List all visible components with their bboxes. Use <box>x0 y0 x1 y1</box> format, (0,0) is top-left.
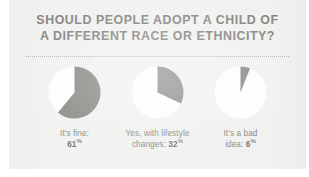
pie-chart-2-percent-sign: % <box>178 139 183 145</box>
pie-chart-1-label-line1: It's fine: <box>60 128 89 139</box>
pie-chart-3-percent-sign: % <box>250 139 255 145</box>
pie-chart-1-label: It's fine: 61% <box>60 128 89 151</box>
pie-chart-2-label: Yes, with lifestyle changes: 32% <box>126 128 190 151</box>
headline-line-1: SHOULD PEOPLE ADOPT A CHILD OF <box>9 13 306 29</box>
pie-chart-row: It's fine: 61% Yes, with lifestyle chang… <box>9 66 306 151</box>
pie-chart-3-svg <box>214 66 267 119</box>
pie-chart-item-lifestyle-changes: Yes, with lifestyle changes: 32% <box>116 66 199 151</box>
pie-chart-3-label-line2: idea: 6% <box>224 139 258 150</box>
pie-chart-item-its-fine: It's fine: 61% <box>33 66 116 151</box>
pie-chart-2 <box>131 66 184 119</box>
headline-line-2: A DIFFERENT RACE OR ETHNICITY? <box>9 29 306 45</box>
pie-chart-1-svg <box>48 66 101 119</box>
pie-chart-1-label-line2: 61% <box>60 139 89 150</box>
pie-chart-1 <box>48 66 101 119</box>
pie-chart-3 <box>214 66 267 119</box>
pie-chart-2-value: 32 <box>168 140 177 149</box>
pie-chart-2-label-prefix: changes: <box>132 140 168 149</box>
pie-chart-2-label-line2: changes: 32% <box>126 139 190 150</box>
pie-chart-3-label: It's a bad idea: 6% <box>224 128 258 151</box>
dotted-divider <box>26 56 289 57</box>
pie-chart-1-percent-sign: % <box>76 139 81 145</box>
infographic-card: SHOULD PEOPLE ADOPT A CHILD OF A DIFFERE… <box>9 0 306 169</box>
pie-chart-3-label-prefix: idea: <box>225 140 246 149</box>
pie-chart-item-bad-idea: It's a bad idea: 6% <box>199 66 282 151</box>
page-title: SHOULD PEOPLE ADOPT A CHILD OF A DIFFERE… <box>9 13 306 44</box>
pie-chart-2-svg <box>131 66 184 119</box>
